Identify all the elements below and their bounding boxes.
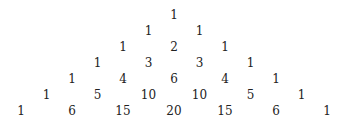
triangle-entry: 1 <box>17 105 25 117</box>
triangle-entry: 1 <box>170 9 178 21</box>
triangle-entry: 1 <box>221 41 229 53</box>
triangle-entry: 15 <box>115 105 130 117</box>
triangle-entry: 3 <box>196 57 204 69</box>
triangle-entry: 4 <box>221 73 229 85</box>
triangle-entry: 6 <box>272 105 280 117</box>
pascal-triangle: 111121133114641151010511615201561 <box>0 0 350 125</box>
triangle-entry: 1 <box>272 73 280 85</box>
triangle-entry: 1 <box>323 105 331 117</box>
triangle-entry: 6 <box>68 105 76 117</box>
triangle-entry: 15 <box>217 105 232 117</box>
triangle-entry: 10 <box>192 89 207 101</box>
triangle-entry: 1 <box>145 25 153 37</box>
triangle-entry: 20 <box>166 105 181 117</box>
triangle-entry: 1 <box>247 57 255 69</box>
triangle-entry: 3 <box>145 57 153 69</box>
triangle-entry: 1 <box>119 41 127 53</box>
triangle-entry: 2 <box>170 41 178 53</box>
triangle-entry: 10 <box>141 89 156 101</box>
triangle-entry: 1 <box>68 73 76 85</box>
triangle-entry: 1 <box>298 89 306 101</box>
triangle-entry: 5 <box>247 89 255 101</box>
triangle-entry: 6 <box>170 73 178 85</box>
triangle-entry: 1 <box>94 57 102 69</box>
triangle-entry: 1 <box>196 25 204 37</box>
triangle-entry: 1 <box>43 89 51 101</box>
triangle-entry: 4 <box>119 73 127 85</box>
triangle-entry: 5 <box>94 89 102 101</box>
